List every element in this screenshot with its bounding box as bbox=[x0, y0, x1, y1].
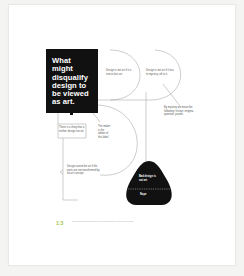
verdict-top: Bad design is not art bbox=[139, 175, 159, 182]
title-notch bbox=[70, 112, 73, 115]
note-maker: The maker is the arbiter of this label. bbox=[98, 125, 112, 140]
title-line: as art. bbox=[52, 98, 93, 106]
figure-caption: A map of considerations that might disqu… bbox=[71, 221, 161, 223]
note-neither: There is a thing that is neither design … bbox=[59, 126, 85, 133]
note-non-in-fact: Design is not art if it is non-in-fact a… bbox=[106, 69, 136, 76]
note-mystery-definition: By mystery we mean the following: fricti… bbox=[164, 106, 200, 117]
verdict-blob bbox=[124, 160, 174, 206]
note-mystery: Design is not art if it has to mystery, … bbox=[146, 69, 174, 76]
title-box: What might disqualify design to be viewe… bbox=[46, 49, 98, 113]
verdict-bottom: Nope bbox=[140, 193, 146, 197]
note-transcended: Design cannot be art if the parts are no… bbox=[67, 165, 103, 176]
connector-lines bbox=[0, 0, 244, 276]
verdict-shape: Bad design is not art Nope bbox=[124, 160, 174, 206]
figure-number: 1:3 bbox=[56, 220, 63, 226]
